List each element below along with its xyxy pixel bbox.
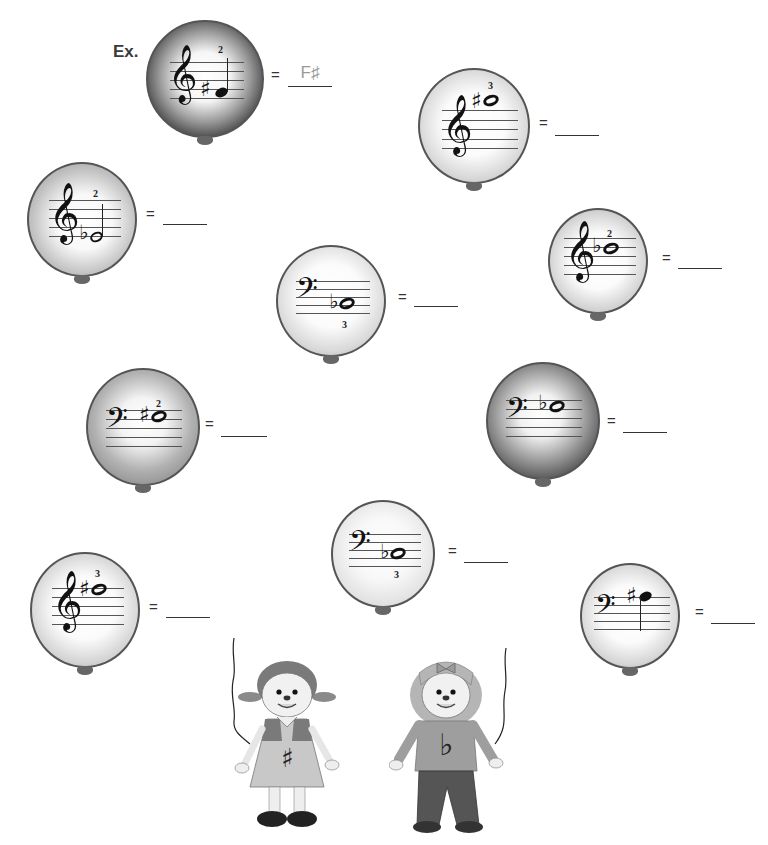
balloon-knot xyxy=(74,275,90,284)
fingering-number: 3 xyxy=(95,568,100,579)
bass-clef-icon: 𝄢 xyxy=(349,527,371,561)
flat-icon: ♭ xyxy=(439,727,453,762)
treble-clef-icon: 𝄞 xyxy=(442,98,473,150)
equals-sign: = xyxy=(662,249,671,266)
bass-clef-icon: 𝄢 xyxy=(106,404,128,438)
equals-sign: = xyxy=(398,288,407,305)
balloon-knot xyxy=(77,666,93,675)
whole-note xyxy=(482,93,501,109)
flat-girl-illustration: ♭ xyxy=(389,655,504,835)
balloon-knot xyxy=(197,136,213,145)
note-stem xyxy=(640,597,641,631)
answer-blank-4[interactable] xyxy=(414,306,458,307)
flat-icon: ♭ xyxy=(538,392,547,412)
balloon-8: 𝄞 ♯ 3 xyxy=(30,552,140,668)
flat-icon: ♭ xyxy=(592,235,601,255)
answer-blank-7[interactable] xyxy=(464,562,508,563)
fingering-number: 3 xyxy=(342,319,347,330)
answer-blank-8[interactable] xyxy=(166,617,210,618)
answer-blank-example[interactable] xyxy=(288,86,332,87)
sharp-icon: ♯ xyxy=(626,585,637,607)
note-stem xyxy=(227,58,228,92)
sharp-icon: ♯ xyxy=(139,404,150,426)
flat-icon: ♭ xyxy=(329,291,338,311)
fingering-number: 2 xyxy=(93,188,98,199)
balloon-knot xyxy=(535,478,551,487)
balloon-knot xyxy=(590,312,606,321)
balloon-knot xyxy=(466,182,482,191)
balloon-6: 𝄢 ♭ xyxy=(486,362,600,480)
balloon-example: 𝄞 ♯ 2 xyxy=(146,20,264,138)
sharp-icon: ♯ xyxy=(79,578,90,600)
fingering-number: 2 xyxy=(156,398,161,409)
answer-blank-9[interactable] xyxy=(711,623,755,624)
balloon-7: 𝄢 ♭ 3 xyxy=(331,500,435,608)
example-label: Ex. xyxy=(113,42,139,62)
equals-sign: = xyxy=(539,114,548,131)
equals-sign: = xyxy=(205,415,214,432)
equals-sign: = xyxy=(607,412,616,429)
treble-clef-icon: 𝄞 xyxy=(49,186,80,238)
fingering-number: 3 xyxy=(488,80,493,91)
sharp-icon: ♯ xyxy=(281,743,294,773)
balloon-knot xyxy=(135,484,151,493)
answer-blank-2[interactable] xyxy=(163,224,207,225)
fingering-number: 3 xyxy=(394,569,399,580)
balloon-knot xyxy=(323,355,339,364)
answer-example: F♯ xyxy=(288,63,332,83)
balloon-2: 𝄞 ♭ 2 xyxy=(27,162,137,277)
answer-blank-5[interactable] xyxy=(221,436,267,437)
balloon-knot xyxy=(375,606,391,615)
equals-sign: = xyxy=(146,205,155,222)
balloon-4: 𝄢 ♭ 3 xyxy=(276,245,386,357)
bass-clef-icon: 𝄢 xyxy=(296,274,318,308)
answer-blank-3[interactable] xyxy=(678,268,722,269)
bass-clef-icon: 𝄢 xyxy=(595,592,616,624)
balloon-knot xyxy=(622,667,638,676)
answer-blank-1[interactable] xyxy=(555,135,599,136)
flat-icon: ♭ xyxy=(380,541,389,561)
balloon-1: 𝄞 ♯ 3 xyxy=(418,68,530,184)
sharp-icon: ♯ xyxy=(200,78,211,100)
balloon-5: 𝄢 ♯ 2 xyxy=(86,368,200,486)
sharp-icon: ♯ xyxy=(471,90,482,112)
balloon-9: 𝄢 ♯ xyxy=(580,563,680,669)
fingering-number: 2 xyxy=(218,44,223,55)
equals-sign: = xyxy=(149,598,158,615)
equals-sign: = xyxy=(448,542,457,559)
equals-sign: = xyxy=(271,66,280,83)
note-stem xyxy=(102,204,103,236)
flat-icon: ♭ xyxy=(79,222,88,242)
equals-sign: = xyxy=(695,603,704,620)
fingering-number: 2 xyxy=(607,228,612,239)
answer-blank-6[interactable] xyxy=(623,432,667,433)
balloon-3: 𝄞 ♭ 2 xyxy=(548,208,648,314)
treble-clef-icon: 𝄞 xyxy=(168,48,198,98)
bass-clef-icon: 𝄢 xyxy=(506,394,528,428)
sharp-girl-illustration: ♯ xyxy=(232,655,342,835)
